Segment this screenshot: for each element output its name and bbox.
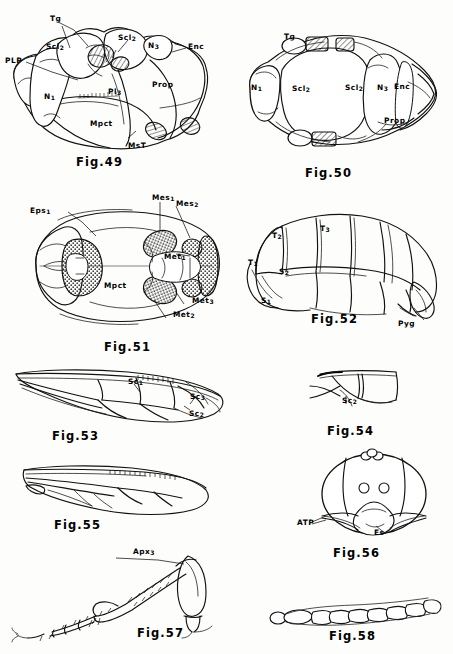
fig50-label-Scl2-posterior: Scl2 bbox=[345, 84, 363, 92]
fig52-drawing bbox=[238, 204, 450, 328]
fig50-label-Enc: Enc bbox=[394, 83, 410, 90]
fig49-label-N3: N3 bbox=[148, 42, 159, 50]
fig54-caption: Fig.54 bbox=[327, 424, 374, 438]
fig49-label-Pl3: Pl3 bbox=[108, 88, 121, 96]
fig51-label-Met2: Met2 bbox=[173, 311, 195, 319]
fig49-label-Scl2: Scl2 bbox=[46, 43, 64, 51]
fig55-caption: Fig.55 bbox=[54, 518, 101, 532]
fig52-label-S2: S2 bbox=[279, 268, 289, 276]
fig51-caption: Fig.51 bbox=[104, 340, 151, 354]
fig53-label-Sc3: Sc3 bbox=[190, 393, 205, 401]
fig52-label-T1: T1 bbox=[248, 259, 258, 267]
fig53-label-Sc1: Sc1 bbox=[128, 378, 143, 386]
fig49-label-Scl2-posterior: Scl2 bbox=[118, 34, 136, 42]
fig51-drawing bbox=[14, 196, 236, 336]
fig49-label-Tg: Tg bbox=[50, 15, 61, 22]
fig52-label-S1: S1 bbox=[261, 297, 271, 305]
fig57-caption: Fig.57 bbox=[137, 626, 184, 640]
fig54-drawing bbox=[310, 366, 428, 412]
illustration-plate: Tg Scl2 Scl2 N3 Enc PLP N1 Prop Pl3 Mpct… bbox=[0, 0, 453, 654]
fig49-label-MsT: MsT bbox=[128, 142, 146, 149]
fig50-drawing bbox=[232, 18, 448, 168]
fig52-label-T2: T2 bbox=[272, 232, 282, 240]
fig52-label-Pyg: Pyg bbox=[398, 320, 415, 327]
fig54-label-Sc2: Sc2 bbox=[342, 397, 357, 405]
fig49-label-Enc: Enc bbox=[188, 43, 204, 50]
fig58-drawing bbox=[268, 592, 444, 632]
fig51-label-Mes1: Mes1 bbox=[152, 194, 174, 202]
fig51-label-Met3: Met3 bbox=[192, 297, 214, 305]
fig58-caption: Fig.58 bbox=[329, 629, 376, 643]
fig51-label-Eps1: Eps1 bbox=[30, 207, 50, 215]
fig51-label-Met1: Met1 bbox=[164, 253, 186, 261]
fig49-label-N1: N1 bbox=[44, 93, 55, 101]
fig56-label-ATP: ATP bbox=[297, 519, 314, 526]
fig50-label-Scl2: Scl2 bbox=[292, 85, 310, 93]
fig49-label-Prop: Prop bbox=[152, 81, 173, 88]
fig49-label-PLP: PLP bbox=[5, 57, 22, 64]
fig51-label-Mes2: Mes2 bbox=[176, 200, 198, 208]
fig56-label-Es: Es bbox=[374, 529, 384, 536]
fig52-caption: Fig.52 bbox=[311, 312, 358, 326]
fig53-label-Sc2: Sc2 bbox=[189, 410, 204, 418]
fig53-drawing bbox=[10, 360, 240, 428]
fig50-label-Tg: Tg bbox=[284, 33, 295, 40]
fig57-label-Apx3: Apx3 bbox=[133, 548, 154, 556]
fig50-label-N3: N3 bbox=[377, 84, 388, 92]
fig49-label-Mpct: Mpct bbox=[90, 120, 113, 127]
fig50-label-N1: N1 bbox=[251, 84, 262, 92]
fig53-caption: Fig.53 bbox=[52, 429, 99, 443]
fig52-label-T3: T3 bbox=[320, 225, 330, 233]
fig56-caption: Fig.56 bbox=[333, 546, 380, 560]
fig50-caption: Fig.50 bbox=[305, 166, 352, 180]
fig49-caption: Fig.49 bbox=[76, 155, 123, 169]
fig57-drawing bbox=[8, 552, 220, 638]
fig50-label-Prop: Prop bbox=[384, 117, 405, 124]
fig51-label-Mpct: Mpct bbox=[104, 282, 127, 289]
fig55-drawing bbox=[14, 458, 218, 520]
